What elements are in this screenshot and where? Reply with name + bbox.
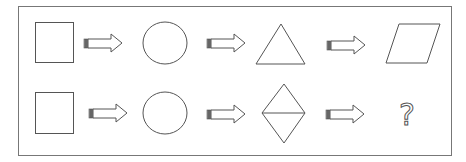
right-arrow-icon	[207, 105, 245, 123]
row1-circle	[143, 22, 187, 64]
right-arrow-icon	[207, 34, 245, 52]
row1-parallelogram	[386, 24, 440, 63]
right-arrow-icon	[326, 105, 364, 123]
right-arrow-icon	[84, 34, 122, 52]
puzzle-frame	[19, 7, 452, 156]
puzzle-diagram: ?	[0, 0, 466, 162]
row2-square	[36, 93, 74, 134]
row2-circle	[143, 92, 187, 134]
right-arrow-icon	[89, 104, 127, 122]
row1-triangle	[256, 24, 305, 64]
right-arrow-icon	[327, 36, 365, 54]
unknown-question-mark: ?	[399, 97, 415, 132]
row1-square	[36, 23, 74, 63]
